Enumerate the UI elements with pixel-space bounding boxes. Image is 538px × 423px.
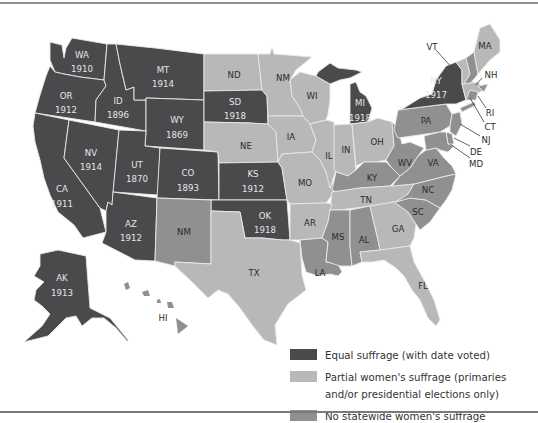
svg-text:AZ: AZ xyxy=(125,219,137,229)
svg-text:WA: WA xyxy=(75,50,89,60)
svg-text:TN: TN xyxy=(359,195,372,205)
svg-text:1914: 1914 xyxy=(80,162,102,172)
svg-text:OH: OH xyxy=(370,137,383,147)
svg-text:MT: MT xyxy=(157,65,170,75)
svg-text:KS: KS xyxy=(247,169,258,179)
state-co: CO 1893 xyxy=(157,148,219,200)
svg-text:MA: MA xyxy=(478,41,491,51)
svg-text:IL: IL xyxy=(325,151,333,161)
svg-text:RI: RI xyxy=(486,108,495,118)
svg-text:1870: 1870 xyxy=(126,174,148,184)
svg-text:IA: IA xyxy=(287,132,296,142)
svg-text:WY: WY xyxy=(170,115,184,125)
svg-text:LA: LA xyxy=(315,268,326,278)
svg-text:ID: ID xyxy=(113,96,123,106)
svg-text:KY: KY xyxy=(367,173,378,183)
svg-text:1918: 1918 xyxy=(254,225,276,235)
svg-text:WI: WI xyxy=(306,91,317,101)
svg-text:NY: NY xyxy=(430,76,442,86)
svg-text:SD: SD xyxy=(229,97,241,107)
state-ny: NY 1917 xyxy=(398,62,466,110)
svg-text:1917: 1917 xyxy=(425,90,447,100)
svg-text:CA: CA xyxy=(56,184,68,194)
svg-text:1913: 1913 xyxy=(51,288,73,298)
svg-text:1896: 1896 xyxy=(107,110,129,120)
legend-item-equal: Equal suffrage (with date voted) xyxy=(290,347,530,364)
svg-text:HI: HI xyxy=(159,313,168,323)
svg-text:FL: FL xyxy=(418,281,428,291)
svg-text:NV: NV xyxy=(85,148,97,158)
svg-text:NM: NM xyxy=(177,227,191,237)
svg-text:TX: TX xyxy=(247,268,259,278)
svg-text:1918: 1918 xyxy=(224,111,246,121)
svg-text:AL: AL xyxy=(359,235,370,245)
state-ma: MA xyxy=(474,24,500,74)
state-wy: WY 1869 xyxy=(145,98,204,150)
legend-label-partial: Partial women's suffrage (primaries and/… xyxy=(325,369,530,403)
svg-text:MS: MS xyxy=(332,232,345,242)
svg-text:1912: 1912 xyxy=(242,184,264,194)
state-ak: AK 1913 xyxy=(24,250,128,342)
legend-swatch-partial xyxy=(290,371,317,382)
svg-text:VA: VA xyxy=(427,158,438,168)
svg-text:NJ: NJ xyxy=(482,135,491,145)
svg-text:1869: 1869 xyxy=(166,130,188,140)
svg-text:OR: OR xyxy=(60,91,73,101)
svg-text:1910: 1910 xyxy=(71,64,93,74)
svg-text:UT: UT xyxy=(131,160,143,170)
svg-text:NM: NM xyxy=(276,73,290,83)
state-fl: FL xyxy=(360,246,440,326)
svg-text:1914: 1914 xyxy=(152,79,174,89)
svg-text:OK: OK xyxy=(259,211,272,221)
svg-text:ND: ND xyxy=(227,70,240,80)
legend-label-equal: Equal suffrage (with date voted) xyxy=(325,347,490,364)
legend-item-partial: Partial women's suffrage (primaries and/… xyxy=(290,369,530,403)
svg-text:MI: MI xyxy=(355,98,365,108)
svg-text:1912: 1912 xyxy=(120,233,142,243)
svg-text:MD: MD xyxy=(469,159,483,169)
svg-text:AR: AR xyxy=(304,218,316,228)
state-sd: SD 1918 xyxy=(204,90,268,124)
legend-swatch-equal xyxy=(290,349,317,360)
bottom-rule xyxy=(0,411,538,413)
svg-text:CO: CO xyxy=(182,168,195,178)
state-hi: HI xyxy=(124,282,188,334)
svg-text:NH: NH xyxy=(485,70,498,80)
svg-text:1911: 1911 xyxy=(51,199,73,209)
svg-text:1918: 1918 xyxy=(349,113,371,123)
svg-text:MO: MO xyxy=(298,178,312,188)
state-nm: NM xyxy=(155,198,211,266)
svg-text:GA: GA xyxy=(392,224,405,234)
svg-text:IN: IN xyxy=(342,145,351,155)
svg-text:SC: SC xyxy=(412,207,423,217)
svg-text:AK: AK xyxy=(56,273,68,283)
state-ks: KS 1912 xyxy=(219,162,287,200)
svg-text:PA: PA xyxy=(421,116,432,126)
state-nd: ND xyxy=(204,54,262,91)
svg-text:NE: NE xyxy=(240,141,252,151)
svg-text:NC: NC xyxy=(422,185,434,195)
svg-text:WV: WV xyxy=(398,158,412,168)
svg-text:CT: CT xyxy=(484,122,496,132)
svg-text:DE: DE xyxy=(470,147,482,157)
svg-text:1912: 1912 xyxy=(55,105,77,115)
svg-text:1893: 1893 xyxy=(177,183,199,193)
svg-text:VT: VT xyxy=(426,42,438,52)
